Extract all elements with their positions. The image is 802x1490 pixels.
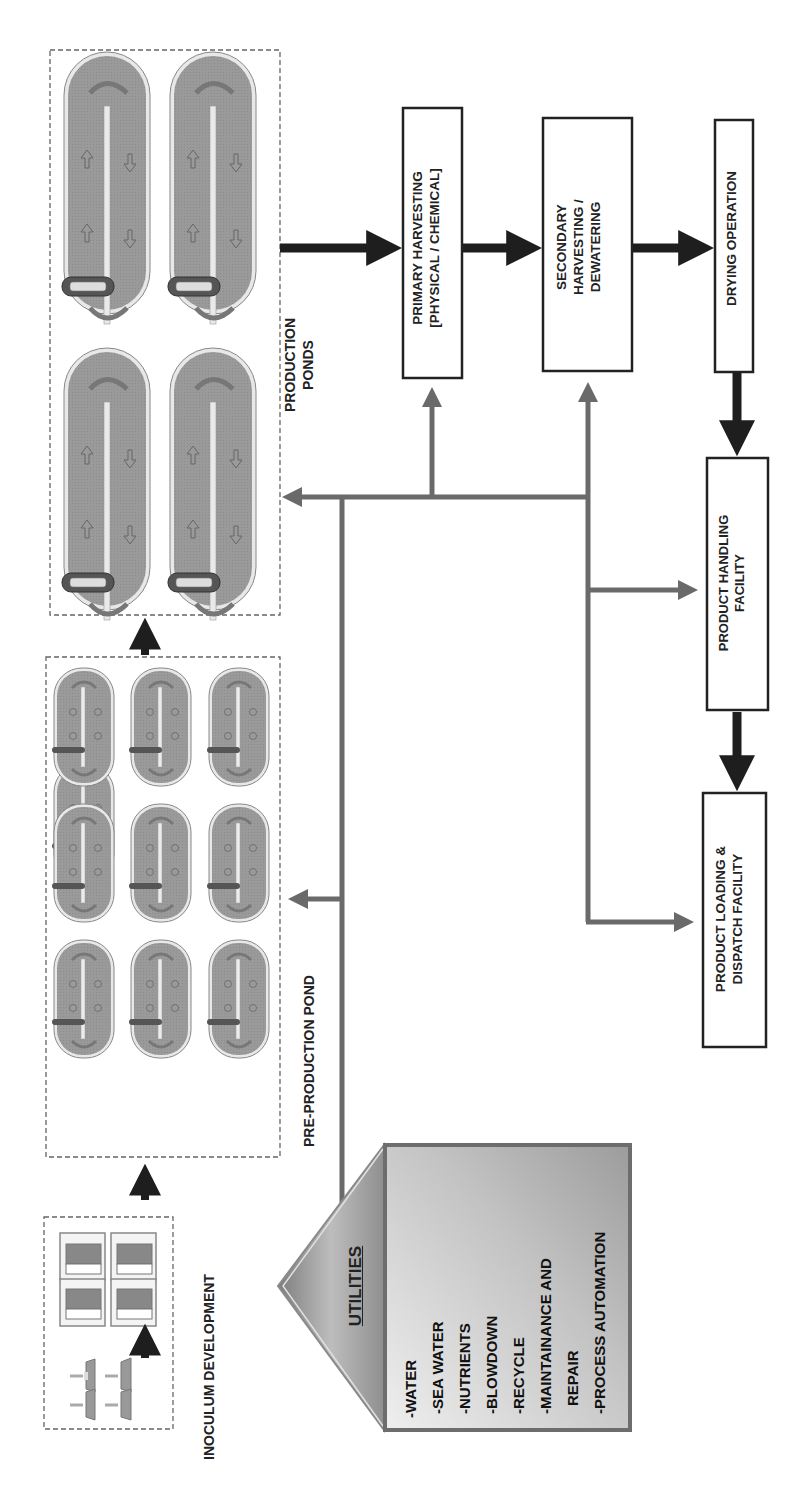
production-ponds-group xyxy=(50,50,280,620)
raceway-pond xyxy=(62,52,150,324)
product-handling-label: PRODUCT HANDLING FACILITY xyxy=(716,513,758,653)
product-loading-label: PRODUCT LOADING & DISPATCH FACILITY xyxy=(713,844,755,994)
secondary-line1: SECONDARY xyxy=(554,187,571,307)
pre-production-pond-label: PRE-PRODUCTION POND xyxy=(301,997,321,1147)
primary-line1: PRIMARY HARVESTING xyxy=(410,153,427,343)
pre-production-ponds-group xyxy=(46,657,280,1157)
utilities-title-text: UTILITIES xyxy=(345,1236,366,1336)
utilities-title: UTILITIES xyxy=(345,1236,367,1336)
loading-line2: DISPATCH FACILITY xyxy=(730,844,747,994)
drying-line1: DRYING OPERATION xyxy=(724,186,741,306)
handling-line1: PRODUCT HANDLING xyxy=(716,513,732,653)
pre-production-label-text: PRE-PRODUCTION POND xyxy=(301,997,319,1147)
utility-item: -WATER xyxy=(397,1232,424,1418)
utility-item: -PROCESS AUTOMATION xyxy=(586,1232,613,1418)
loading-line1: PRODUCT LOADING & xyxy=(713,844,730,994)
inoculum-label-text: INOCULUM DEVELOPMENT xyxy=(201,1280,219,1460)
secondary-line3: DEWATERING xyxy=(588,187,605,307)
utilities-list: -WATER -SEA WATER -NUTRIENTS -BLOWDOWN -… xyxy=(397,1232,613,1418)
utility-item: -NUTRIENTS xyxy=(451,1232,478,1418)
primary-harvesting-label: PRIMARY HARVESTING [PHYSICAL / CHEMICAL] xyxy=(410,153,454,343)
incubator-icons xyxy=(60,1233,156,1326)
drying-operation-label: DRYING OPERATION xyxy=(724,186,744,306)
handling-line2: FACILITY xyxy=(732,513,748,653)
inoculum-group xyxy=(44,1217,173,1429)
utility-item: -RECYCLE xyxy=(505,1232,532,1418)
production-ponds-label: PRODUCTION PONDS xyxy=(282,315,322,415)
utility-item: REPAIR xyxy=(559,1232,586,1418)
primary-line2: [PHYSICAL / CHEMICAL] xyxy=(427,153,444,343)
secondary-line2: HARVESTING / xyxy=(571,187,588,307)
inoculum-development-label: INOCULUM DEVELOPMENT xyxy=(201,1280,221,1460)
small-raceway-pond xyxy=(52,764,114,882)
secondary-harvesting-label: SECONDARY HARVESTING / DEWATERING xyxy=(554,187,620,307)
production-label-line1: PRODUCTION xyxy=(282,315,300,415)
flask-icons xyxy=(70,1358,131,1420)
utility-item: -MAINTAINANCE AND xyxy=(532,1232,559,1418)
utility-item: -BLOWDOWN xyxy=(478,1232,505,1418)
utility-item: -SEA WATER xyxy=(424,1232,451,1418)
production-label-line2: PONDS xyxy=(300,315,318,415)
